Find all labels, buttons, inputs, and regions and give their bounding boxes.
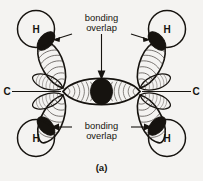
orbital-diagram-svg: H H H H C C bonding overlap bonding over… (0, 0, 203, 181)
bonding-overlap-blob-center (91, 79, 113, 105)
hydrogen-label-top-right: H (163, 24, 170, 35)
carbon-label-right: C (192, 86, 199, 97)
hydrogen-label-bottom-left: H (32, 133, 39, 144)
annotation-bottom-line2: overlap (86, 130, 117, 141)
annotation-top-line2: overlap (86, 22, 117, 33)
hydrogen-label-bottom-right: H (163, 133, 170, 144)
orbital-overlap-figure: H H H H C C bonding overlap bonding over… (0, 0, 203, 181)
hydrogen-label-top-left: H (32, 24, 39, 35)
carbon-label-left: C (3, 86, 10, 97)
figure-caption: (a) (96, 162, 108, 173)
